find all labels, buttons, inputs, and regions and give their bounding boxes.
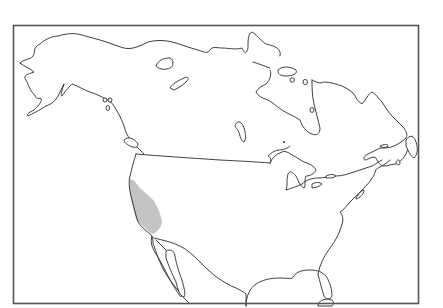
great-slave-lake-outline [235,122,245,142]
great-lakes [270,151,382,190]
coastline-mexico [154,238,246,306]
small-island-2 [303,79,307,84]
lake-ontario-outline [326,175,336,179]
coastline-gulf [246,270,332,306]
small-island-1 [290,78,294,82]
map-frame [14,26,419,304]
canada-us-border [136,154,270,163]
lake-erie-outline [312,183,322,189]
map-dot [283,141,285,143]
baffin-island-west [256,70,320,135]
pei-island [396,160,400,165]
range-map [0,0,443,308]
range-shaded-area [130,180,162,234]
arctic-island-1 [156,58,173,69]
cuba-outline [318,299,334,306]
anticosti-island [380,145,388,148]
north-america-map [0,0,443,308]
small-island-3 [310,108,314,113]
newfoundland-outline [406,136,417,158]
arctic-island-2 [170,77,188,90]
southampton-island-outline [278,67,296,76]
gulf-of-california-outline [166,250,185,297]
vancouver-island-outline [124,138,138,147]
